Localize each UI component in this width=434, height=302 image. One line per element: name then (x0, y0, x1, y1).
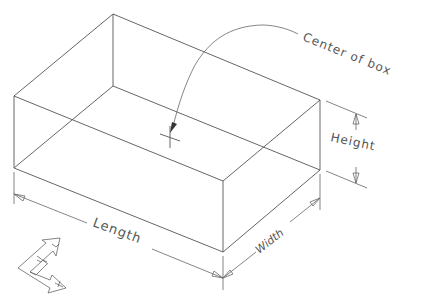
center-label: Center of box (301, 30, 394, 78)
height-label: Height (329, 130, 377, 153)
box-wireframe (14, 14, 320, 252)
diagram-canvas: Center of box Height Length Width (0, 0, 434, 302)
width-label: Width (253, 226, 286, 256)
ucs-icon (18, 238, 66, 293)
width-dimension (223, 174, 320, 278)
center-marker (160, 126, 180, 148)
length-label: Length (91, 215, 144, 246)
